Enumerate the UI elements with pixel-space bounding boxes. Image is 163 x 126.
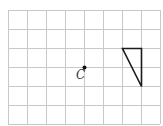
center-point-label: C — [76, 68, 85, 82]
grid-diagram: C — [0, 0, 163, 126]
